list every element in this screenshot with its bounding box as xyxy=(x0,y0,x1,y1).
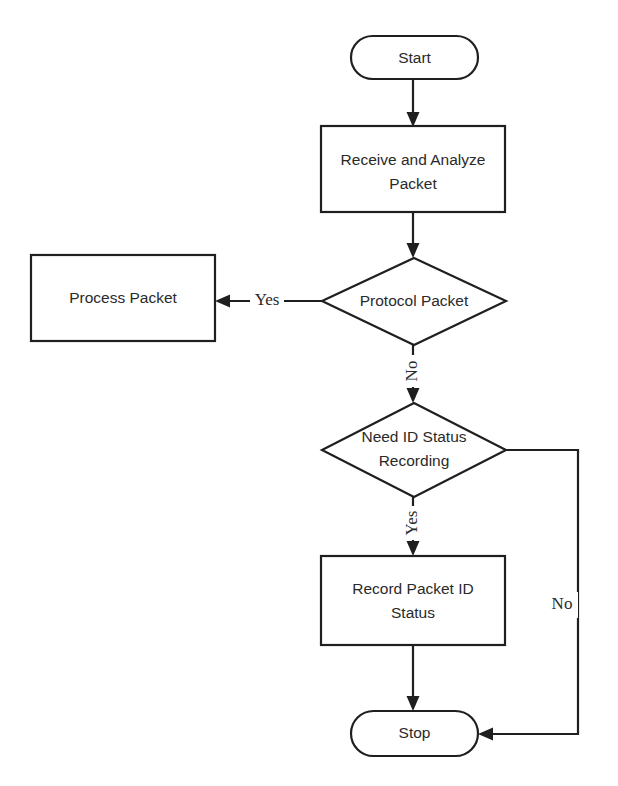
edge-label-needid-no: No xyxy=(552,594,573,613)
node-label-receive-line1: Receive and Analyze xyxy=(341,151,486,168)
arrowhead-icon xyxy=(215,295,230,308)
edge-protocol-to-needid: No xyxy=(402,345,424,403)
node-label-protocol-packet: Protocol Packet xyxy=(360,292,469,309)
node-start[interactable]: Start xyxy=(351,36,478,79)
flowchart-canvas: Yes No Yes No xyxy=(0,0,618,786)
flowchart-diagram: Yes No Yes No xyxy=(0,0,618,786)
arrowhead-icon xyxy=(407,112,420,127)
edge-record-to-stop xyxy=(407,645,420,711)
edge-needid-to-record: Yes xyxy=(402,497,424,556)
node-need-id-status-recording[interactable]: Need ID Status Recording xyxy=(322,403,506,497)
node-label-needid-line2: Recording xyxy=(379,452,450,469)
node-protocol-packet[interactable]: Protocol Packet xyxy=(322,258,506,345)
edge-protocol-to-process: Yes xyxy=(215,290,322,312)
node-label-receive-line2: Packet xyxy=(389,175,437,192)
edge-label-protocol-no: No xyxy=(402,361,421,382)
arrowhead-icon xyxy=(407,243,420,258)
edge-label-needid-yes: Yes xyxy=(402,511,421,536)
node-label-process-packet: Process Packet xyxy=(69,289,177,306)
edge-label-protocol-yes: Yes xyxy=(255,290,280,309)
node-receive-and-analyze-packet[interactable]: Receive and Analyze Packet xyxy=(321,126,505,212)
node-record-packet-id-status[interactable]: Record Packet ID Status xyxy=(321,556,505,645)
node-label-record-line1: Record Packet ID xyxy=(352,580,473,597)
arrowhead-icon xyxy=(407,696,420,711)
decision-shape[interactable] xyxy=(322,403,506,497)
node-label-stop: Stop xyxy=(399,724,431,741)
node-stop[interactable]: Stop xyxy=(351,711,478,756)
process-shape[interactable] xyxy=(321,126,505,212)
process-shape[interactable] xyxy=(321,556,505,645)
node-label-start: Start xyxy=(398,49,431,66)
arrowhead-icon xyxy=(407,388,420,403)
node-label-record-line2: Status xyxy=(391,604,435,621)
edge-start-to-receive xyxy=(407,79,420,127)
edge-receive-to-protocol xyxy=(407,212,420,258)
node-process-packet[interactable]: Process Packet xyxy=(31,255,215,341)
arrowhead-icon xyxy=(407,541,420,556)
arrowhead-icon xyxy=(478,728,493,741)
node-label-needid-line1: Need ID Status xyxy=(361,428,466,445)
